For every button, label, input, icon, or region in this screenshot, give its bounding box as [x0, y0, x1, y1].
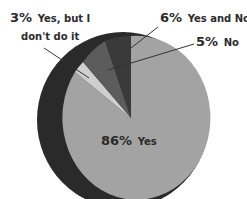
- label-text: Yes, but I: [38, 13, 91, 24]
- label-yes: 86% Yes: [101, 131, 157, 149]
- label-text: Yes: [138, 136, 157, 147]
- label-yes-but-dont: 3% Yes, but I don't do it: [10, 8, 90, 43]
- label-pct: 5%: [196, 34, 218, 49]
- label-text: Yes and No: [188, 13, 247, 24]
- label-pct: 3%: [10, 10, 32, 25]
- label-pct: 86%: [101, 133, 132, 148]
- label-text-2: don't do it: [21, 31, 79, 42]
- label-pct: 6%: [160, 10, 182, 25]
- label-no: 5% No: [196, 32, 239, 50]
- label-yes-and-no: 6% Yes and No: [160, 8, 247, 26]
- label-text: No: [224, 37, 239, 48]
